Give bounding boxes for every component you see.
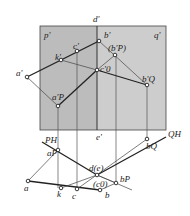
label-a: a xyxy=(24,183,29,193)
label-k: k xyxy=(57,189,62,199)
label-de: d(e) xyxy=(89,163,104,173)
plane-q-front xyxy=(97,26,166,130)
label-PH: PH xyxy=(44,135,57,145)
label-bP: bP xyxy=(120,174,131,184)
label-d-prime: d' xyxy=(93,14,101,24)
label-bQ: bQ xyxy=(146,141,158,151)
label-b: b xyxy=(105,190,110,200)
label-aP-prime: a'P xyxy=(52,92,64,102)
label-c0-prime: c'0 xyxy=(100,64,111,74)
label-c0: (c0) xyxy=(93,179,108,189)
label-bP-prime: (b'P) xyxy=(108,43,126,53)
projection-diagram: d' p' q' a' k' c' b' (b'P) c'0 b'Q a'P e… xyxy=(0,0,190,216)
label-p-prime: p' xyxy=(43,30,52,40)
label-aP: aP xyxy=(47,148,58,158)
label-b-prime: b' xyxy=(104,30,112,40)
label-q-prime: q' xyxy=(154,30,162,40)
label-c: c xyxy=(72,191,76,201)
label-a-prime: a' xyxy=(16,68,24,78)
label-bQ-prime: b'Q xyxy=(142,74,155,84)
label-QH: QH xyxy=(168,129,181,139)
label-e-prime: e' xyxy=(96,132,103,142)
